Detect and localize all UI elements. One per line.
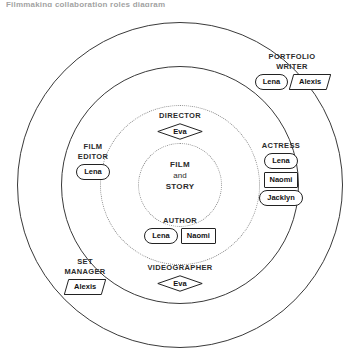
group-videographer[interactable]: VIDEOGRAPHER Eva bbox=[130, 263, 230, 292]
group-portfolio-writer-label: PORTFOLIO WRITER bbox=[269, 52, 316, 71]
core-label: FILM and STORY bbox=[140, 159, 220, 192]
core-line-3: STORY bbox=[140, 181, 220, 192]
group-portfolio-writer-label-line1: PORTFOLIO bbox=[269, 52, 316, 62]
group-director-nodes: Eva bbox=[157, 123, 203, 140]
group-set-manager-nodes: Alexis bbox=[66, 279, 104, 295]
node-chip-naomi-actress[interactable]: Naomi bbox=[264, 172, 299, 188]
group-film-editor[interactable]: FILM EDITOR Lena bbox=[63, 142, 123, 180]
group-videographer-label: VIDEOGRAPHER bbox=[147, 263, 212, 273]
group-portfolio-writer-nodes: Lena Alexis bbox=[255, 74, 330, 90]
node-label-naomi-actress: Naomi bbox=[270, 176, 293, 184]
group-director[interactable]: DIRECTOR Eva bbox=[140, 111, 220, 140]
node-label-eva-director: Eva bbox=[173, 128, 186, 136]
group-set-manager-label-line2: MANAGER bbox=[64, 267, 105, 277]
node-chip-lena-film-editor[interactable]: Lena bbox=[76, 164, 110, 180]
group-set-manager-label: SET MANAGER bbox=[64, 257, 105, 276]
group-author-label: AUTHOR bbox=[163, 216, 197, 226]
node-label-alexis-set-manager: Alexis bbox=[74, 283, 96, 291]
group-actress-nodes: Lena Naomi Jacklyn bbox=[259, 153, 303, 206]
group-videographer-nodes: Eva bbox=[157, 275, 203, 292]
group-film-editor-nodes: Lena bbox=[76, 164, 110, 180]
group-actress[interactable]: ACTRESS Lena Naomi Jacklyn bbox=[250, 141, 312, 206]
node-label-alexis-portfolio-writer: Alexis bbox=[299, 78, 321, 86]
node-label-lena-film-editor: Lena bbox=[84, 168, 102, 176]
node-label-lena-author: Lena bbox=[152, 232, 170, 240]
node-chip-jacklyn-actress[interactable]: Jacklyn bbox=[259, 190, 303, 206]
group-portfolio-writer-label-line2: WRITER bbox=[269, 62, 316, 72]
diagram-canvas: Filmmaking collaboration roles diagram F… bbox=[0, 0, 360, 353]
node-chip-alexis-set-manager[interactable]: Alexis bbox=[64, 279, 107, 295]
group-set-manager-label-line1: SET bbox=[64, 257, 105, 267]
group-portfolio-writer[interactable]: PORTFOLIO WRITER Lena Alexis bbox=[247, 52, 337, 90]
node-chip-lena-actress[interactable]: Lena bbox=[264, 153, 298, 169]
node-label-jacklyn-actress: Jacklyn bbox=[267, 194, 295, 202]
group-director-label: DIRECTOR bbox=[159, 111, 201, 121]
node-chip-alexis-portfolio-writer[interactable]: Alexis bbox=[289, 74, 332, 90]
group-set-manager[interactable]: SET MANAGER Alexis bbox=[45, 257, 125, 295]
group-author[interactable]: AUTHOR Lena Naomi bbox=[135, 216, 225, 244]
core-line-1: FILM bbox=[140, 159, 220, 170]
node-chip-lena-portfolio-writer[interactable]: Lena bbox=[255, 74, 289, 90]
node-label-eva-videographer: Eva bbox=[173, 280, 186, 288]
group-film-editor-label: FILM EDITOR bbox=[78, 142, 108, 161]
core-line-2: and bbox=[140, 170, 220, 181]
node-chip-eva-videographer[interactable]: Eva bbox=[157, 275, 203, 292]
node-label-lena-portfolio-writer: Lena bbox=[263, 78, 281, 86]
group-film-editor-label-line1: FILM bbox=[78, 142, 108, 152]
node-label-naomi-author: Naomi bbox=[187, 232, 210, 240]
clipped-header-text: Filmmaking collaboration roles diagram bbox=[6, 0, 216, 7]
group-film-editor-label-line2: EDITOR bbox=[78, 152, 108, 162]
node-chip-lena-author[interactable]: Lena bbox=[144, 228, 178, 244]
node-chip-eva-director[interactable]: Eva bbox=[157, 123, 203, 140]
node-chip-naomi-author[interactable]: Naomi bbox=[181, 228, 216, 244]
group-actress-label: ACTRESS bbox=[262, 141, 300, 151]
node-label-lena-actress: Lena bbox=[272, 157, 290, 165]
group-author-nodes: Lena Naomi bbox=[144, 228, 215, 244]
